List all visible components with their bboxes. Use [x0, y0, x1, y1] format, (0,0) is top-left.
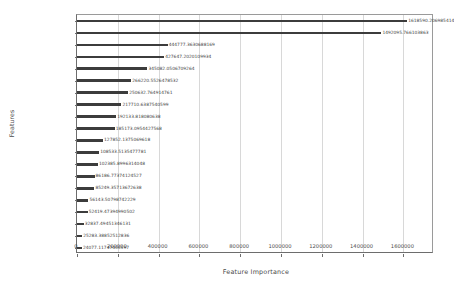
bar-value-label: 102385.8996314048 [99, 161, 145, 166]
y-axis-tick [75, 140, 78, 141]
y-axis-tick [75, 200, 78, 201]
bar [77, 187, 94, 190]
bar [77, 91, 128, 94]
bar-value-label: 192133.818080638 [117, 113, 160, 118]
x-axis-tick-label: 0 [74, 243, 77, 249]
bar-value-label: 217710.6387540599 [122, 101, 168, 106]
bar [77, 127, 115, 130]
x-axis-title: Feature Importance [76, 268, 436, 276]
y-axis-tick [75, 224, 78, 225]
x-axis-tick [403, 254, 404, 257]
y-axis-tick [75, 176, 78, 177]
x-axis-tick-label: 600000 [188, 243, 208, 249]
y-axis-tick [75, 117, 78, 118]
x-axis-tick-label: 800000 [229, 243, 249, 249]
bar-value-label: 52419.47394990502 [89, 209, 135, 214]
bar [77, 56, 164, 59]
bar-value-label: 85249.35713672638 [95, 185, 141, 190]
y-axis-tick [75, 129, 78, 130]
x-axis-tick [322, 254, 323, 257]
plot-area [76, 14, 433, 253]
bar [77, 103, 121, 106]
bar [77, 211, 88, 214]
bar [77, 151, 99, 154]
bar-value-label: 250632.764914761 [129, 89, 172, 94]
bar [77, 199, 88, 202]
bar-value-label: 1618590.206985414 [408, 17, 454, 22]
bar-value-label: 266220.5526478532 [132, 77, 178, 82]
bar [77, 20, 407, 23]
y-axis-tick [75, 164, 78, 165]
y-axis-tick [75, 152, 78, 153]
x-gridline [159, 15, 160, 252]
bar-value-label: 185173.0954427568 [116, 125, 162, 130]
bar-value-label: 444777.3630688169 [169, 41, 215, 46]
bar-value-label: 127852.1375069618 [104, 137, 150, 142]
y-axis-tick [75, 33, 78, 34]
bar [77, 163, 98, 166]
x-axis-tick [159, 254, 160, 257]
y-axis-tick [75, 236, 78, 237]
x-axis-tick [363, 254, 364, 257]
bar-value-label: 32837.49451346131 [85, 221, 131, 226]
bar [77, 32, 381, 35]
y-axis-tick [75, 57, 78, 58]
bar [77, 175, 95, 178]
x-axis-tick-label: 1200000 [309, 243, 332, 249]
x-gridline [281, 15, 282, 252]
x-gridline [363, 15, 364, 252]
bar [77, 223, 84, 226]
bar-value-label: 427647.2020109934 [165, 53, 211, 58]
x-axis-tick-label: 1600000 [391, 243, 414, 249]
x-gridline [403, 15, 404, 252]
y-axis-title: Features [8, 89, 15, 159]
y-axis-tick [75, 93, 78, 94]
bar-value-label: 345082.0506709264 [148, 65, 194, 70]
x-gridline [199, 15, 200, 252]
bar [77, 67, 147, 70]
x-axis-tick [199, 254, 200, 257]
bar-value-label: 24077.11747455597 [83, 245, 129, 250]
y-axis-tick [75, 45, 78, 46]
x-axis-tick [240, 254, 241, 257]
bar-value-label: 86186.77374124527 [96, 173, 142, 178]
bar-value-label: 108533.5135477781 [100, 149, 146, 154]
y-axis-tick [75, 69, 78, 70]
y-axis-tick [75, 212, 78, 213]
x-gridline [118, 15, 119, 252]
bar [77, 139, 103, 142]
y-axis-tick [75, 188, 78, 189]
bar [77, 79, 131, 82]
x-axis-tick [77, 254, 78, 257]
y-axis-tick [75, 81, 78, 82]
y-axis-tick [75, 21, 78, 22]
x-gridline [240, 15, 241, 252]
bar [77, 247, 82, 250]
bar-value-label: 56143.50798742229 [89, 197, 135, 202]
bar [77, 44, 168, 47]
bar [77, 235, 82, 238]
bar [77, 115, 116, 118]
bar-value-label: 1492095.766103863 [382, 29, 428, 34]
x-axis-tick-label: 1400000 [350, 243, 373, 249]
x-axis-tick [281, 254, 282, 257]
x-gridline [322, 15, 323, 252]
x-axis-tick-label: 1000000 [268, 243, 291, 249]
bar-value-label: 25283.38852512836 [83, 233, 129, 238]
y-axis-tick [75, 105, 78, 106]
x-axis-tick-label: 400000 [148, 243, 168, 249]
x-axis-tick [118, 254, 119, 257]
